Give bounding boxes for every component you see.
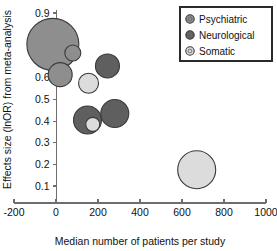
y-tick-label: 0.6 [35,71,50,83]
bubble-chart: -200020040060080010000.90.80.70.60.50.40… [0,0,277,251]
bubble-psychiatric [27,18,79,70]
y-tick-label: 0.4 [35,115,50,127]
legend-marker-somatic [186,47,194,55]
x-tick-label: 600 [173,206,191,218]
y-tick-label: 0.1 [35,180,50,192]
bubble-psychiatric [65,45,81,61]
y-tick-label: 0.3 [35,136,50,148]
x-tick-label: 200 [89,206,107,218]
legend-marker-neurological [186,31,194,39]
y-tick-label: 0.5 [35,93,50,105]
x-tick-label: 400 [131,206,149,218]
x-tick-label: 0 [53,206,59,218]
legend-label-psychiatric: Psychiatric [199,14,247,25]
legend-marker-psychiatric [186,15,194,23]
bubble-psychiatric [48,63,72,87]
x-tick-label: -200 [3,206,24,218]
bubble-somatic [178,151,216,189]
y-axis-title: Effects size (lnOR) from meta-analysis [1,10,13,189]
legend-label-somatic: Somatic [199,46,235,57]
y-tick-label: 0.9 [35,7,50,19]
x-axis-title: Median number of patients per study [55,235,226,247]
bubble-somatic [79,73,99,93]
chart-page: -200020040060080010000.90.80.70.60.50.40… [0,0,277,251]
legend-label-neurological: Neurological [199,30,255,41]
bubble-somatic [86,117,100,131]
bubble-neurological [95,54,119,78]
bubble-neurological [101,100,129,128]
y-tick-label: 0.2 [35,158,50,170]
x-tick-label: 1000 [254,206,277,218]
chart-legend: PsychiatricNeurologicalSomatic [180,7,272,61]
x-tick-label: 800 [215,206,233,218]
